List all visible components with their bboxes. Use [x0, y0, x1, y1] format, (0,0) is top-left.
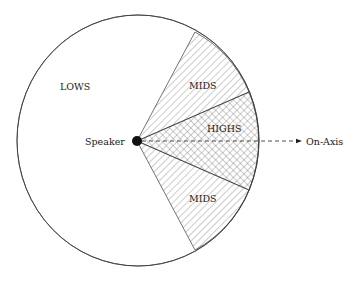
- lows-label: LOWS: [60, 81, 90, 92]
- speaker-icon: [132, 136, 142, 146]
- mids-upper-label: MIDS: [189, 80, 217, 91]
- speaker-dispersion-diagram: LOWS MIDS HIGHS MIDS Speaker On-Axis: [0, 0, 356, 283]
- mids-lower-label: MIDS: [189, 193, 217, 204]
- on-axis-label: On-Axis: [306, 136, 343, 147]
- speaker-label: Speaker: [85, 136, 125, 147]
- highs-label: HIGHS: [207, 123, 241, 134]
